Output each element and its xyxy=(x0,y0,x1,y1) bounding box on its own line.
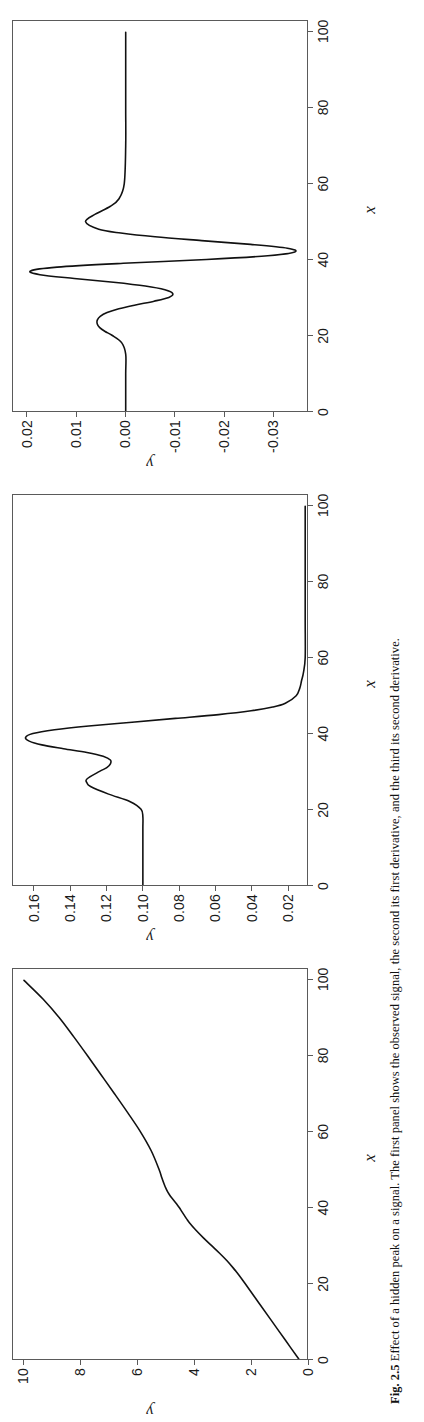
y-tick-label: 8 xyxy=(72,1368,88,1376)
x-tick-label: 100 xyxy=(315,494,331,517)
x-tick-label: 100 xyxy=(315,20,331,43)
tick-mark xyxy=(308,1283,313,1284)
x-tick-label: 60 xyxy=(315,176,331,192)
x-tick-label: 0 xyxy=(315,1356,331,1364)
x-tick-label: 40 xyxy=(315,726,331,742)
panel3-plot-area xyxy=(12,20,308,412)
tick-mark xyxy=(308,107,313,108)
tick-mark xyxy=(308,886,313,887)
x-tick-label: 0 xyxy=(315,882,331,890)
panel-second-derivative: y 0.02 0.01 0.00 -0.01 -0.02 -0.03 0 xyxy=(0,0,382,474)
x-tick-label: 20 xyxy=(315,1276,331,1292)
tick-mark xyxy=(125,412,126,417)
figure-caption-label: Fig. 2.5 xyxy=(388,1364,402,1404)
panel1-plot-area xyxy=(12,968,308,1360)
tick-mark xyxy=(308,733,313,734)
figure-caption-text: Effect of a hidden peak on a signal. The… xyxy=(388,638,402,1361)
tick-mark xyxy=(174,412,175,417)
tick-mark xyxy=(215,886,216,891)
y-tick-label: 0.01 xyxy=(68,420,84,448)
panel3-x-ticks: 0 20 40 60 80 100 xyxy=(308,20,342,412)
tick-mark xyxy=(106,886,107,891)
tick-mark xyxy=(308,183,313,184)
figure-caption: Fig. 2.5 Effect of a hidden peak on a si… xyxy=(382,0,404,1422)
first-derivative-curve xyxy=(25,506,305,885)
y-tick-label: 10 xyxy=(15,1368,31,1384)
y-tick-label: 0.02 xyxy=(280,894,296,922)
y-tick-label: -0.03 xyxy=(265,420,281,453)
tick-mark xyxy=(308,581,313,582)
tick-mark xyxy=(308,979,313,980)
y-tick-label: 0.06 xyxy=(207,894,223,922)
panel1-y-axis-label: y xyxy=(0,1402,300,1420)
x-tick-label: 40 xyxy=(315,252,331,268)
panel2-x-axis-label: x xyxy=(360,482,380,886)
tick-mark xyxy=(308,335,313,336)
tick-mark xyxy=(33,886,34,891)
panel2-y-axis-label: y xyxy=(0,928,300,946)
x-tick-label: 20 xyxy=(315,328,331,344)
x-tick-label: 20 xyxy=(315,802,331,818)
tick-mark xyxy=(251,1360,252,1365)
panel1-x-axis-label: x xyxy=(360,956,380,1360)
x-tick-label: 80 xyxy=(315,574,331,590)
y-tick-label: 6 xyxy=(129,1368,145,1376)
tick-mark xyxy=(308,1360,313,1361)
tick-mark xyxy=(80,1360,81,1365)
panel2-x-ticks: 0 20 40 60 80 100 xyxy=(308,494,342,886)
tick-mark xyxy=(251,886,252,891)
tick-mark xyxy=(308,412,313,413)
panel3-y-axis-label: y xyxy=(0,454,300,472)
y-tick-label: 0.00 xyxy=(117,420,133,448)
x-tick-label: 0 xyxy=(315,408,331,416)
tick-mark xyxy=(26,412,27,417)
tick-mark xyxy=(70,886,71,891)
panel-row: y 0 2 4 6 8 10 0 20 4 xyxy=(0,0,382,1422)
panel1-curve-canvas xyxy=(13,969,307,1359)
x-tick-label: 60 xyxy=(315,650,331,666)
y-tick-label: 4 xyxy=(186,1368,202,1376)
tick-mark xyxy=(23,1360,24,1365)
signal-curve xyxy=(24,980,299,1359)
tick-mark xyxy=(137,1360,138,1365)
tick-mark xyxy=(142,886,143,891)
y-tick-label: 0.08 xyxy=(171,894,187,922)
panel-signal: y 0 2 4 6 8 10 0 20 4 xyxy=(0,948,382,1422)
panel2-curve-canvas xyxy=(13,495,307,885)
tick-mark xyxy=(308,31,313,32)
tick-mark xyxy=(288,886,289,891)
tick-mark xyxy=(308,809,313,810)
second-derivative-curve xyxy=(30,32,296,411)
tick-mark xyxy=(308,1207,313,1208)
x-tick-label: 80 xyxy=(315,100,331,116)
panel3-y-ticks: 0.02 0.01 0.00 -0.01 -0.02 -0.03 xyxy=(12,412,308,454)
panel1-x-ticks: 0 20 40 60 80 100 xyxy=(308,968,342,1360)
rotated-page-stage: y 0 2 4 6 8 10 0 20 4 xyxy=(0,0,424,1422)
panel-first-derivative: y 0.02 0.04 0.06 0.08 0.10 0.12 0.14 0.1… xyxy=(0,474,382,948)
y-tick-label: -0.01 xyxy=(167,420,183,453)
y-tick-label: 0.14 xyxy=(62,894,78,922)
y-tick-label: 0.02 xyxy=(19,420,35,448)
tick-mark xyxy=(224,412,225,417)
panel3-x-axis-label: x xyxy=(360,8,380,412)
tick-mark xyxy=(308,657,313,658)
y-tick-label: 2 xyxy=(243,1368,259,1376)
panel2-y-ticks: 0.02 0.04 0.06 0.08 0.10 0.12 0.14 0.16 xyxy=(12,886,308,928)
panel1-y-ticks: 0 2 4 6 8 10 xyxy=(12,1360,308,1402)
y-tick-label: 0.10 xyxy=(135,894,151,922)
y-tick-label: 0.16 xyxy=(26,894,42,922)
tick-mark xyxy=(308,259,313,260)
tick-mark xyxy=(76,412,77,417)
tick-mark xyxy=(194,1360,195,1365)
tick-mark xyxy=(308,1055,313,1056)
y-tick-label: 0.12 xyxy=(98,894,114,922)
figure-three-panel-derivatives: y 0 2 4 6 8 10 0 20 4 xyxy=(0,0,424,1422)
tick-mark xyxy=(308,1131,313,1132)
y-tick-label: -0.02 xyxy=(216,420,232,453)
x-tick-label: 100 xyxy=(315,968,331,991)
x-tick-label: 80 xyxy=(315,1048,331,1064)
tick-mark xyxy=(273,412,274,417)
tick-mark xyxy=(179,886,180,891)
tick-mark xyxy=(308,505,313,506)
panel2-plot-area xyxy=(12,494,308,886)
